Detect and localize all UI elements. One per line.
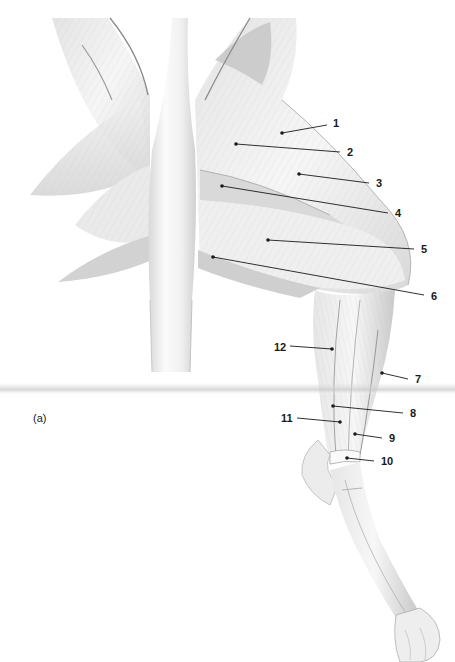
callout-number-7: 7 [415,374,421,385]
callout-number-9: 9 [389,433,395,444]
callout-number-2: 2 [347,147,353,158]
leader-line-7 [382,373,408,379]
anchor-dot-2 [234,142,238,146]
anchor-dot-5 [266,238,270,242]
anchor-dot-7 [380,371,384,375]
callout-number-1: 1 [333,118,339,129]
callout-number-12: 12 [274,342,286,353]
lower-leg [302,290,440,662]
right-thigh-muscles [195,18,411,298]
anchor-dot-1 [280,131,284,135]
anchor-dot-10 [345,456,349,460]
callout-number-5: 5 [421,244,427,255]
anchor-dot-11 [338,420,342,424]
callout-number-4: 4 [395,208,401,219]
anchor-dot-12 [330,347,334,351]
callout-number-3: 3 [376,178,382,189]
tail [148,18,196,372]
anchor-dot-9 [353,432,357,436]
panel-letter: (a) [33,412,46,424]
anchor-dot-8 [331,404,335,408]
callout-number-6: 6 [431,291,437,302]
anchor-dot-6 [211,255,215,259]
anchor-dot-3 [297,172,301,176]
callout-number-11: 11 [281,413,293,424]
callout-number-8: 8 [410,408,416,419]
anatomy-illustration [0,0,455,662]
left-hip-muscles [30,18,152,282]
anchor-dot-4 [220,184,224,188]
callout-number-10: 10 [381,456,393,467]
